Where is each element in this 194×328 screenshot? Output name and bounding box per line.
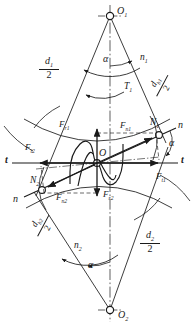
label-tangent-axis-right: t [181,155,184,165]
label-rotation-speed-n1: n1 [140,53,148,65]
label-angle-alpha-top: α [103,54,108,64]
label-pitch-point-o: O [99,148,106,158]
label-tangent-axis-left: t [5,155,8,165]
label-rotation-speed-n2: n2 [74,241,82,253]
label-contact-point-n2: N2 [30,176,39,188]
arc-upper-left-tip [34,106,60,128]
label-force-ft1: Ft1 [156,172,166,183]
label-force-fn2: Fn2 [56,193,67,204]
label-force-ft2: Ft2 [25,143,35,154]
arc-lower-right-tip [134,198,160,220]
contact-point-n1-marker [156,132,163,139]
center-o2-marker [106,306,113,313]
force-vector-fn2 [48,163,97,187]
label-normal-axis-upper: n [178,120,183,130]
label-pitch-radius-bottom: d2 2 [140,230,160,254]
label-force-fr2: Fr2 [103,190,113,201]
label-angle-alpha-bottom: α [88,260,93,270]
rotation-arc-n1 [84,68,140,77]
label-angle-alpha-right: α [169,138,174,148]
label-pitch-radius-top: d1 2 [39,56,59,80]
center-o1-marker [106,12,113,19]
label-center-o2: O2 [118,310,128,322]
angle-arc-alpha-top [110,61,132,66]
force-construction-lower [41,166,97,193]
label-contact-point-n1: N1 [150,118,159,130]
contact-point-n2-marker [39,187,46,194]
label-force-fn1: Fn1 [120,121,131,132]
label-normal-axis-lower: n [13,194,18,204]
label-torque-t1: T1 [124,82,132,94]
pitch-circle-arc-bottom [26,187,172,209]
label-center-o1: O1 [117,6,127,18]
torque-arc-t1 [86,92,124,98]
diagram-canvas: O1 O2 O N1 N2 t t n n α α α n1 n2 T1 d1 … [0,0,194,328]
diagram-vector-layer [0,0,194,328]
label-force-fr1: Fr1 [59,120,69,131]
